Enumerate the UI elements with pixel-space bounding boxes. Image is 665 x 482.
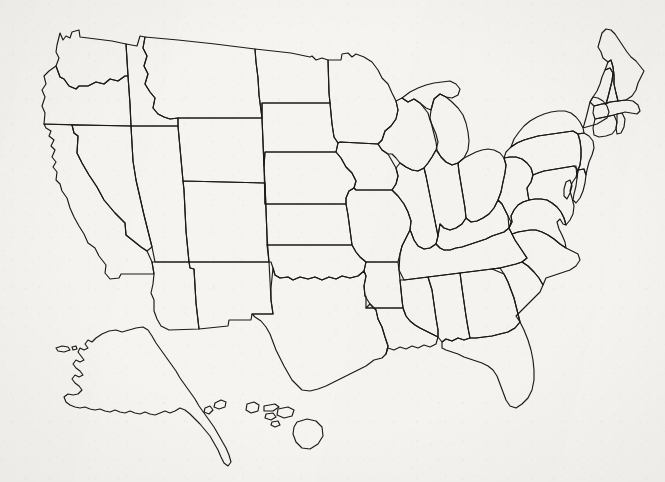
state-south-carolina[interactable] bbox=[492, 262, 543, 322]
state-new-hampshire[interactable] bbox=[605, 60, 618, 104]
state-mississippi[interactable] bbox=[400, 277, 438, 337]
state-nevada[interactable] bbox=[72, 125, 152, 251]
state-michigan-lower[interactable] bbox=[430, 94, 469, 165]
state-idaho[interactable] bbox=[126, 36, 178, 126]
state-utah[interactable] bbox=[131, 126, 189, 262]
state-iowa[interactable] bbox=[336, 142, 398, 190]
state-south-dakota[interactable] bbox=[262, 103, 338, 166]
map-page bbox=[0, 0, 665, 482]
state-kentucky[interactable] bbox=[436, 200, 511, 250]
state-ohio[interactable] bbox=[458, 149, 506, 222]
state-arizona[interactable] bbox=[151, 262, 199, 330]
state-new-jersey[interactable] bbox=[578, 133, 594, 175]
state-north-carolina[interactable] bbox=[512, 230, 580, 285]
state-oregon[interactable] bbox=[42, 66, 131, 126]
state-texas[interactable] bbox=[252, 268, 388, 391]
state-illinois[interactable] bbox=[392, 163, 438, 249]
alaska-aleutian-islet-1[interactable] bbox=[56, 346, 70, 352]
hawaii-island-hawaii[interactable] bbox=[293, 419, 323, 449]
alaska-aleutian-islet-2[interactable] bbox=[72, 346, 77, 350]
hawaii-island-maui[interactable] bbox=[277, 407, 294, 418]
state-indiana[interactable] bbox=[424, 150, 466, 236]
state-maine[interactable] bbox=[598, 29, 644, 101]
state-georgia[interactable] bbox=[460, 268, 520, 338]
state-colorado[interactable] bbox=[183, 181, 269, 262]
hawaii-island-kauai[interactable] bbox=[214, 400, 226, 409]
hawaii-island-oahu[interactable] bbox=[246, 402, 259, 413]
state-wyoming[interactable] bbox=[178, 118, 265, 183]
state-kansas[interactable] bbox=[265, 183, 352, 245]
state-new-mexico[interactable] bbox=[189, 262, 273, 329]
hawaii-island-niihau[interactable] bbox=[204, 406, 213, 414]
hawaii-island-lanai[interactable] bbox=[265, 413, 276, 420]
state-california[interactable] bbox=[44, 124, 154, 279]
alaska-inset-group bbox=[56, 327, 231, 466]
hawaii-island-molokai[interactable] bbox=[264, 404, 279, 411]
state-louisiana[interactable] bbox=[366, 304, 438, 354]
state-alaska[interactable] bbox=[64, 327, 231, 466]
state-minnesota[interactable] bbox=[328, 53, 398, 144]
state-pennsylvania[interactable] bbox=[504, 131, 581, 178]
state-washington[interactable] bbox=[56, 30, 128, 89]
state-michigan-upper[interactable] bbox=[402, 81, 460, 110]
state-florida[interactable] bbox=[442, 322, 534, 408]
state-arkansas[interactable] bbox=[364, 262, 403, 308]
contiguous-united-states-group bbox=[42, 29, 644, 408]
us-states-outline-map[interactable] bbox=[0, 0, 665, 482]
state-alabama[interactable] bbox=[428, 273, 470, 342]
state-montana[interactable] bbox=[143, 37, 262, 119]
hawaii-island-kahoolawe[interactable] bbox=[271, 421, 280, 427]
state-delaware[interactable] bbox=[573, 169, 586, 203]
state-north-dakota[interactable] bbox=[255, 49, 330, 118]
state-oklahoma[interactable] bbox=[267, 245, 366, 280]
